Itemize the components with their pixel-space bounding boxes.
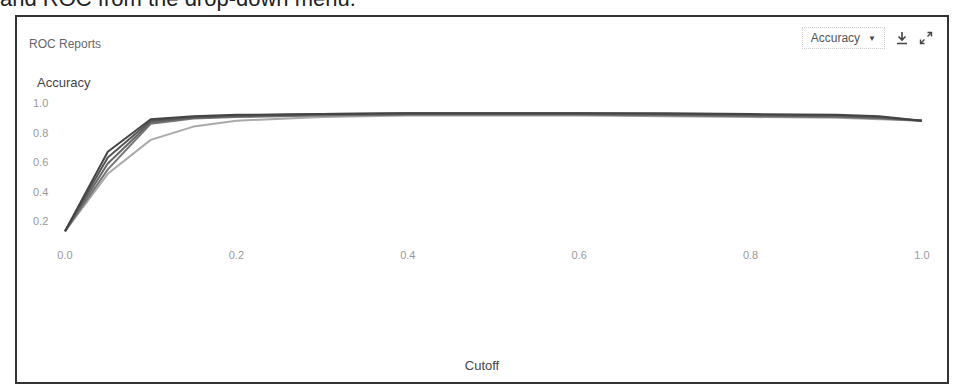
series-line-model-4[interactable]	[65, 115, 922, 232]
x-tick-label: 0.8	[743, 249, 758, 261]
roc-reports-panel: ROC Reports Accuracy ▼ Accuracy Cutoff 0…	[15, 15, 949, 384]
x-tick-label: 0.6	[572, 249, 587, 261]
x-tick-label: 0.0	[57, 249, 72, 261]
accuracy-line-chart: 0.20.40.60.81.00.00.20.40.60.81.0	[17, 17, 947, 382]
y-tick-label: 1.0	[33, 97, 48, 109]
y-tick-label: 0.4	[33, 186, 48, 198]
series-line-model-1[interactable]	[65, 113, 922, 231]
series-line-model-2[interactable]	[65, 113, 922, 231]
series-line-model-3[interactable]	[65, 114, 922, 231]
y-tick-label: 0.6	[33, 156, 48, 168]
series-line-model-5[interactable]	[65, 116, 922, 232]
y-tick-label: 0.8	[33, 127, 48, 139]
x-tick-label: 1.0	[914, 249, 929, 261]
x-tick-label: 0.4	[400, 249, 415, 261]
page-caption: and ROC from the drop-down menu.	[0, 0, 356, 12]
x-tick-label: 0.2	[229, 249, 244, 261]
y-tick-label: 0.2	[33, 215, 48, 227]
